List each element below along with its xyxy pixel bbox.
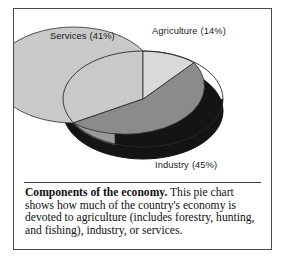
pie-chart: Services(41%) Agriculture(14%) Industry(… [14,9,271,179]
pie-label-services: Services(41%) [50,31,115,41]
pie-label-industry-text: Industry [155,160,189,170]
pie-label-agriculture-value: (14%) [201,26,226,36]
caption-lead-in: Components of the economy. [25,186,167,199]
figure-caption: Components of the economy. This pie char… [25,187,263,237]
pie-label-industry-value: (45%) [192,160,217,170]
pie-label-services-value: (41%) [89,31,114,41]
pie-label-services-text: Services [50,31,86,41]
caption-divider [24,182,261,183]
pie-label-industry: Industry(45%) [155,160,217,170]
pie-label-agriculture: Agriculture(14%) [152,26,226,36]
figure-frame: Services(41%) Agriculture(14%) Industry(… [13,8,272,250]
pie-label-agriculture-text: Agriculture [152,26,198,36]
